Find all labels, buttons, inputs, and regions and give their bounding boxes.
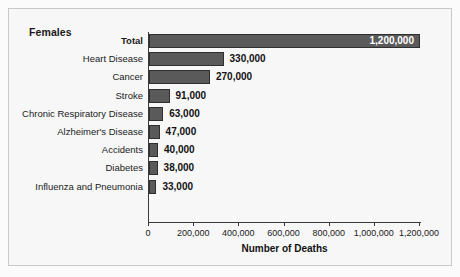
x-axis-tick	[238, 222, 239, 226]
bar	[149, 70, 210, 84]
bar-value-label: 40,000	[164, 143, 195, 157]
category-label: Chronic Respiratory Disease	[9, 107, 143, 121]
bar-row: Alzheimer's Disease47,000	[9, 125, 451, 139]
x-axis-tick	[148, 222, 149, 226]
category-label: Influenza and Pneumonia	[9, 180, 143, 194]
x-axis-tick-label: 800,000	[312, 228, 345, 238]
bar-value-label: 330,000	[230, 52, 266, 66]
bar	[149, 161, 158, 175]
bar	[149, 107, 163, 121]
category-label: Cancer	[9, 70, 143, 84]
x-axis-tick-label: 1,000,000	[354, 228, 394, 238]
x-axis-tick-label: 200,000	[177, 228, 210, 238]
bar-row: Stroke91,000	[9, 89, 451, 103]
bar-row: Heart Disease330,000	[9, 52, 451, 66]
bar	[149, 180, 156, 194]
x-axis-tick	[193, 222, 194, 226]
bar-value-label: 38,000	[164, 161, 195, 175]
bar-row: Total1,200,000	[9, 34, 451, 48]
bar-value-label: 1,200,000	[370, 34, 415, 48]
category-label: Accidents	[9, 143, 143, 157]
x-axis-tick-label: 0	[145, 228, 150, 238]
category-label: Total	[9, 34, 143, 48]
bar-value-label: 33,000	[162, 180, 193, 194]
x-axis-tick-label: 600,000	[267, 228, 300, 238]
category-label: Diabetes	[9, 161, 143, 175]
chart-screenshot: Females Total1,200,000Heart Disease330,0…	[0, 0, 460, 277]
x-axis-line	[148, 222, 421, 223]
x-axis-tick	[329, 222, 330, 226]
bar-row: Cancer270,000	[9, 70, 451, 84]
bar-row: Chronic Respiratory Disease63,000	[9, 107, 451, 121]
x-axis-tick	[284, 222, 285, 226]
chart-frame: Females Total1,200,000Heart Disease330,0…	[8, 8, 452, 266]
bar-value-label: 63,000	[169, 107, 200, 121]
bar-value-label: 47,000	[166, 125, 197, 139]
bar-value-label: 91,000	[176, 89, 207, 103]
x-axis-title: Number of Deaths	[148, 243, 421, 254]
bar	[149, 52, 224, 66]
bar	[149, 89, 170, 103]
x-axis-tick-label: 1,200,000	[399, 228, 439, 238]
x-axis-tick-label: 400,000	[222, 228, 255, 238]
bar	[149, 143, 158, 157]
bar	[149, 125, 160, 139]
category-label: Alzheimer's Disease	[9, 125, 143, 139]
bar-row: Diabetes38,000	[9, 161, 451, 175]
bar-row: Influenza and Pneumonia33,000	[9, 180, 451, 194]
category-label: Heart Disease	[9, 52, 143, 66]
x-axis-tick	[419, 222, 420, 226]
x-axis-tick	[374, 222, 375, 226]
bar-row: Accidents40,000	[9, 143, 451, 157]
bar-value-label: 270,000	[216, 70, 252, 84]
category-label: Stroke	[9, 89, 143, 103]
